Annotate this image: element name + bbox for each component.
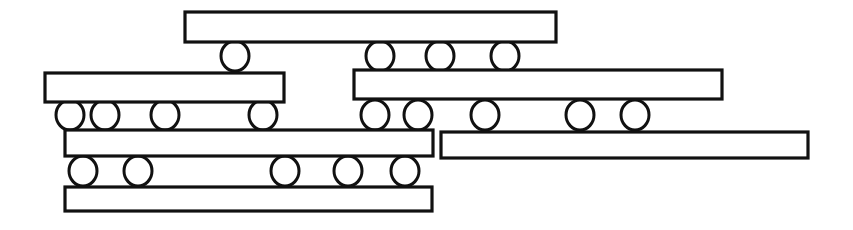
bottom-plate xyxy=(65,187,432,211)
ball-bearing xyxy=(391,156,419,186)
ball-bearing xyxy=(566,100,594,130)
ball-bearing xyxy=(471,100,499,130)
ball-bearing xyxy=(69,156,97,186)
ball-bearing xyxy=(621,100,649,130)
ball-bearing xyxy=(91,100,119,130)
ball-bearing xyxy=(249,100,277,130)
ball-bearing xyxy=(361,100,389,130)
ball-bearing xyxy=(426,41,454,71)
ball-bearing xyxy=(366,41,394,71)
tier3-right-plate xyxy=(441,132,808,158)
ball-row-3 xyxy=(69,156,419,186)
tier2-left-plate xyxy=(45,73,284,102)
top-plate xyxy=(185,12,556,42)
ball-row-1 xyxy=(221,41,519,71)
figure-canvas: Stacked plate and ball-bearing assembly … xyxy=(0,0,853,230)
ball-bearing xyxy=(124,156,152,186)
ball-bearing xyxy=(491,41,519,71)
ball-bearing xyxy=(271,156,299,186)
ball-bearing xyxy=(404,100,432,130)
ball-bearing xyxy=(56,100,84,130)
ball-bearing xyxy=(334,156,362,186)
bearing-assembly-diagram xyxy=(0,0,853,230)
ball-bearing xyxy=(151,100,179,130)
tier2-right-plate xyxy=(354,70,722,99)
ball-row-2 xyxy=(56,100,649,130)
tier3-left-plate xyxy=(65,130,433,156)
ball-bearing xyxy=(221,41,249,71)
